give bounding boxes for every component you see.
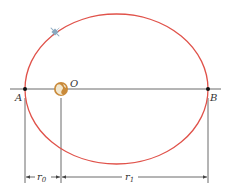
label-a: A — [14, 92, 22, 103]
label-o: O — [70, 78, 78, 89]
point-a-dot — [23, 87, 27, 91]
dimension-r1-label: r1 — [125, 171, 134, 184]
dimension-r0-label: r0 — [37, 171, 47, 184]
orbit-diagram: A B O r0 r1 — [0, 0, 227, 192]
label-b: B — [209, 92, 217, 103]
earth-icon — [54, 82, 68, 96]
point-b-dot — [206, 87, 210, 91]
